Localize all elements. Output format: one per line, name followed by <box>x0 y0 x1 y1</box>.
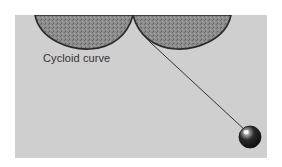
left-cycloid-cheek <box>35 15 133 49</box>
right-cycloid-cheek <box>133 15 231 49</box>
cycloid-curve-label: Cycloid curve <box>43 52 110 64</box>
pendulum-bob <box>239 126 261 148</box>
cycloid-pendulum-diagram <box>0 0 282 167</box>
